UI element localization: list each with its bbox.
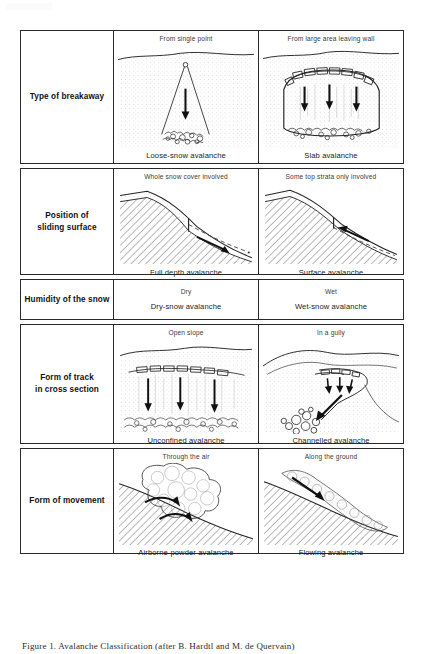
- figure-page: Type of breakaway From single point: [0, 0, 425, 654]
- row-category-label: Form of track in cross section: [21, 325, 114, 443]
- cell-top-label: In a gully: [317, 329, 345, 337]
- table-cell: Along the ground: [258, 449, 403, 553]
- row-category-label: Form of movement: [21, 449, 114, 553]
- cell-bottom-label: Channelled avalanche: [292, 434, 369, 445]
- row-category-line2: sliding surface: [37, 222, 96, 234]
- loose-snow-avalanche-diagram: [116, 45, 256, 149]
- cell-top-label: Wet: [325, 288, 337, 296]
- cell-bottom-label: Slab avalanche: [304, 149, 357, 160]
- row-category-line1: Position of: [37, 210, 96, 222]
- unconfined-avalanche-diagram: [116, 339, 256, 434]
- cell-top-label: Along the ground: [305, 453, 358, 461]
- cell-bottom-label: Dry-snow avalanche: [151, 300, 222, 311]
- avalanche-classification-table: Type of breakaway From single point: [20, 30, 404, 558]
- table-row: Form of movement Through the air: [20, 448, 404, 554]
- cell-bottom-label: Unconfined avalanche: [147, 434, 224, 445]
- cell-top-label: Through the air: [163, 453, 210, 461]
- row-category-line2: in cross section: [35, 384, 99, 396]
- cell-top-label: Open slope: [168, 329, 203, 337]
- table-row: Humidity of the snow Dry Dry-snow avalan…: [20, 279, 404, 320]
- table-row: Form of track in cross section Open slop…: [20, 324, 404, 444]
- cell-bottom-label: Loose-snow avalanche: [146, 149, 226, 160]
- table-cell: From large area leaving wall: [258, 31, 403, 163]
- cell-top-label: From large area leaving wall: [287, 35, 374, 43]
- figure-caption: Figure 1. Avalanche Classification (afte…: [22, 641, 295, 651]
- cell-top-label: Dry: [181, 288, 192, 296]
- surface-avalanche-diagram: [261, 183, 401, 266]
- cell-bottom-label: Wet-snow avalanche: [295, 300, 367, 311]
- table-row: Position of sliding surface Whole snow c…: [20, 168, 404, 275]
- row-category-label: Position of sliding surface: [21, 169, 114, 274]
- cell-bottom-label: Surface avalanche: [299, 266, 364, 277]
- airborne-powder-avalanche-diagram: [116, 463, 256, 546]
- table-cell: Through the air: [114, 449, 258, 553]
- page-corner-mark: [6, 3, 52, 10]
- cell-top-label: Some top strata only involved: [286, 173, 377, 181]
- table-cell: In a gully: [258, 325, 403, 443]
- row-category-label: Humidity of the snow: [21, 280, 114, 319]
- table-cell: Wet Wet-snow avalanche: [258, 280, 403, 319]
- cell-top-label: Whole snow cover involved: [144, 173, 228, 181]
- flowing-avalanche-diagram: [261, 463, 401, 546]
- row-category-line1: Form of track: [35, 372, 99, 384]
- table-row: Type of breakaway From single point: [20, 30, 404, 164]
- table-cell: Open slope: [114, 325, 258, 443]
- cell-top-label: From single point: [159, 35, 212, 43]
- cell-bottom-label: Full depth avalanche: [150, 266, 222, 277]
- table-cell: Some top strata only involved: [258, 169, 403, 274]
- table-cell: Dry Dry-snow avalanche: [114, 280, 258, 319]
- cell-bottom-label: Airborne-powder avalanche: [138, 546, 233, 557]
- table-cell: From single point: [114, 31, 258, 163]
- row-category-label: Type of breakaway: [21, 31, 114, 163]
- channelled-avalanche-diagram: [261, 339, 401, 434]
- table-cell: Whole snow cover involved: [114, 169, 258, 274]
- cell-bottom-label: Flowing avalanche: [299, 546, 364, 557]
- full-depth-avalanche-diagram: [116, 183, 256, 266]
- slab-avalanche-diagram: [261, 45, 401, 149]
